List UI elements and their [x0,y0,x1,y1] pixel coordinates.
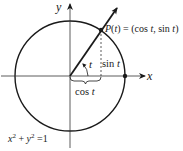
angle-label: t [89,58,93,70]
point-p-label: P(t) = (cos t, sin t) [104,23,178,35]
cos-brace [70,77,101,84]
y-axis-label: y [55,0,62,14]
sin-label: sin t [102,58,121,69]
circle-equation: x2 + y2 =1 [7,132,48,144]
point-p [99,28,103,32]
x-axis-label: x [146,69,153,83]
unit-circle-diagram: y x P(t) = (cos t, sin t) t sin t cos t … [0,0,183,151]
cos-label: cos t [75,86,96,97]
angle-arc [83,64,88,76]
point-one-zero [123,74,127,78]
